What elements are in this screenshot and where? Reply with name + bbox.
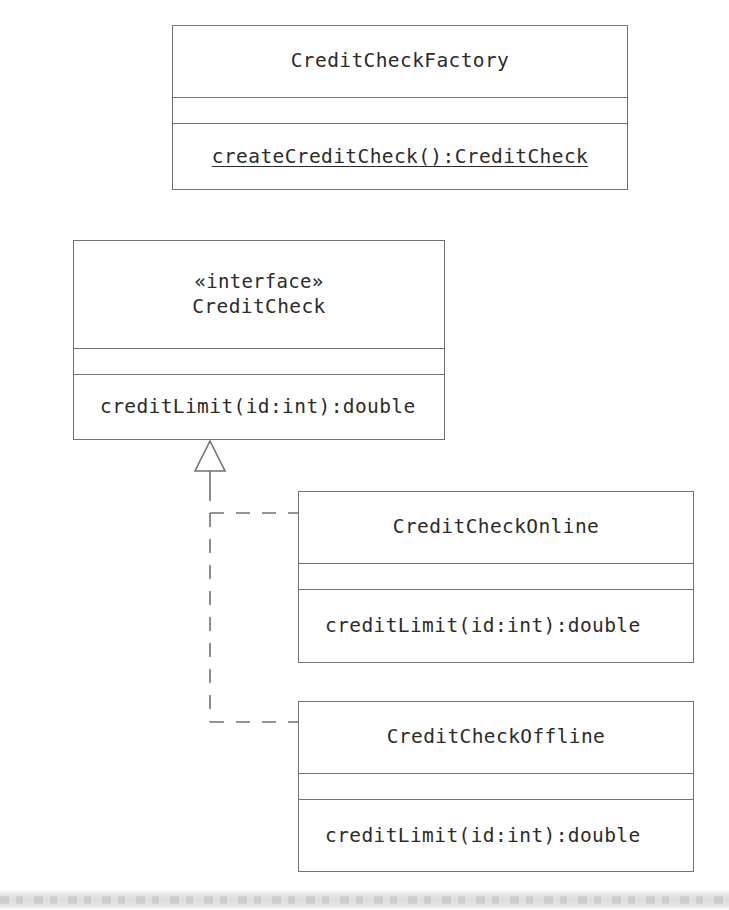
class-name-credit-check-factory: CreditCheckFactory xyxy=(291,48,510,75)
attributes-compartment-credit-check-factory xyxy=(173,98,627,124)
operations-compartment-credit-check: creditLimit(id:int):double xyxy=(74,375,444,438)
class-name-credit-check: CreditCheck xyxy=(192,294,326,321)
operation-credit-limit-offline: creditLimit(id:int):double xyxy=(299,824,641,847)
class-box-credit-check-online[interactable]: CreditCheckOnline creditLimit(id:int):do… xyxy=(298,491,694,663)
attributes-compartment-credit-check-offline xyxy=(299,774,693,800)
attributes-compartment-credit-check xyxy=(74,349,444,375)
operations-compartment-credit-check-offline: creditLimit(id:int):double xyxy=(299,800,693,870)
page-scan-artifact xyxy=(0,890,729,910)
class-box-credit-check-factory[interactable]: CreditCheckFactory createCreditCheck():C… xyxy=(172,25,628,190)
class-header-credit-check-online: CreditCheckOnline xyxy=(299,492,693,564)
uml-diagram-canvas: CreditCheckFactory createCreditCheck():C… xyxy=(0,0,729,910)
class-header-credit-check-offline: CreditCheckOffline xyxy=(299,702,693,774)
class-header-credit-check-interface: «interface» CreditCheck xyxy=(74,241,444,349)
operation-credit-limit-online: creditLimit(id:int):double xyxy=(299,614,641,637)
class-name-credit-check-offline: CreditCheckOffline xyxy=(387,724,606,751)
stereotype-interface: «interface» xyxy=(194,268,323,294)
hollow-triangle-arrowhead-icon xyxy=(195,441,225,471)
operations-compartment-credit-check-online: creditLimit(id:int):double xyxy=(299,590,693,661)
class-name-credit-check-online: CreditCheckOnline xyxy=(393,514,599,541)
operation-credit-limit-interface: creditLimit(id:int):double xyxy=(74,395,416,418)
operations-compartment-credit-check-factory: createCreditCheck():CreditCheck xyxy=(173,124,627,188)
class-box-credit-check-offline[interactable]: CreditCheckOffline creditLimit(id:int):d… xyxy=(298,701,694,872)
attributes-compartment-credit-check-online xyxy=(299,564,693,590)
operation-create-credit-check: createCreditCheck():CreditCheck xyxy=(173,145,627,168)
class-box-credit-check-interface[interactable]: «interface» CreditCheck creditLimit(id:i… xyxy=(73,240,445,440)
class-header-credit-check-factory: CreditCheckFactory xyxy=(173,26,627,98)
